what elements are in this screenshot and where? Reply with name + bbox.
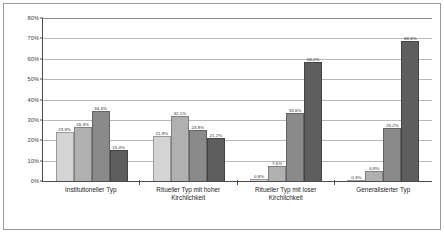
y-axis-tick-label: 10% [28, 158, 40, 164]
bar[interactable]: 32,1% [171, 116, 189, 181]
bar-value-label: 68,8% [404, 36, 417, 41]
bar-value-label: 58,2% [307, 57, 320, 62]
bar[interactable]: 0,3% [347, 180, 365, 181]
bar-value-label: 4,8% [369, 166, 379, 171]
bar-value-label: 26,3% [76, 122, 89, 127]
bar-slot: 26,3% [74, 18, 92, 181]
y-axis-tick-label: 80% [28, 15, 40, 21]
bar[interactable]: 26,3% [74, 127, 92, 181]
y-axis-tick-label: 70% [28, 35, 40, 41]
bar-slot: 68,8% [401, 18, 419, 181]
bar-value-label: 23,9% [58, 127, 71, 132]
bar-slot: 34,4% [92, 18, 110, 181]
y-axis-tick-label: 30% [28, 117, 40, 123]
bar-slot: 21,2% [207, 18, 225, 181]
y-axis-tick-label: 60% [28, 56, 40, 62]
bar-slot: 33,6% [286, 18, 304, 181]
bar-chart: 80%70%60%50%40%30%20%10%0% 23,9%26,3%34,… [0, 0, 444, 233]
bar-value-label: 15,4% [112, 145, 125, 150]
bar-slot: 58,2% [304, 18, 322, 181]
bar-value-label: 26,2% [386, 123, 399, 128]
y-axis-tick-label: 20% [28, 137, 40, 143]
bar-slot: 23,9% [56, 18, 74, 181]
bar-groups: 23,9%26,3%34,4%15,4%21,9%32,1%24,8%21,2%… [43, 18, 432, 181]
x-axis-category-label: Ritueller Typ mit hoher Kirchlichkeit [140, 186, 238, 203]
bar-slot: 4,8% [365, 18, 383, 181]
bar-value-label: 21,9% [156, 131, 169, 136]
bar[interactable]: 0,8% [250, 179, 268, 181]
x-axis-category-label: Ritueller Typ mit loser Kirchlichkeit [237, 186, 335, 203]
bar-value-label: 7,6% [272, 161, 282, 166]
bar[interactable]: 33,6% [286, 113, 304, 181]
bar-group: 21,9%32,1%24,8%21,2% [140, 18, 237, 181]
bar-slot: 0,3% [347, 18, 365, 181]
bar-slot: 15,4% [110, 18, 128, 181]
x-axis-labels: Institutioneller TypRitueller Typ mit ho… [42, 186, 432, 203]
bar-value-label: 33,6% [289, 108, 302, 113]
bar-slot: 24,8% [189, 18, 207, 181]
x-axis-category-label: Generalisierter Typ [335, 186, 433, 203]
x-axis-category-label: Institutioneller Typ [42, 186, 140, 203]
bar[interactable]: 26,2% [383, 128, 401, 181]
y-axis-tick-label: 50% [28, 76, 40, 82]
bar-value-label: 0,8% [254, 174, 264, 179]
bar[interactable]: 58,2% [304, 62, 322, 181]
bar[interactable]: 24,8% [189, 130, 207, 181]
bar-group: 23,9%26,3%34,4%15,4% [43, 18, 140, 181]
bar-slot: 21,9% [153, 18, 171, 181]
y-axis-tick-label: 40% [28, 97, 40, 103]
bar[interactable]: 23,9% [56, 132, 74, 181]
bar-value-label: 0,3% [351, 175, 361, 180]
bar[interactable]: 4,8% [365, 171, 383, 181]
bar[interactable]: 21,9% [153, 136, 171, 181]
bar-slot: 26,2% [383, 18, 401, 181]
bar[interactable]: 68,8% [401, 41, 419, 181]
bar[interactable]: 34,4% [92, 111, 110, 181]
bar-group: 0,8%7,6%33,6%58,2% [238, 18, 335, 181]
bar[interactable]: 7,6% [268, 166, 286, 181]
bar[interactable]: 21,2% [207, 138, 225, 181]
bar-slot: 32,1% [171, 18, 189, 181]
y-axis-tick-label: 0% [31, 178, 39, 184]
plot-area: 80%70%60%50%40%30%20%10%0% 23,9%26,3%34,… [42, 18, 432, 182]
bar-value-label: 32,1% [174, 111, 187, 116]
bar-slot: 0,8% [250, 18, 268, 181]
bar-value-label: 34,4% [94, 106, 107, 111]
bar-group: 0,3%4,8%26,2%68,8% [335, 18, 432, 181]
bar-value-label: 24,8% [192, 125, 205, 130]
bar-slot: 7,6% [268, 18, 286, 181]
bar-value-label: 21,2% [210, 133, 223, 138]
bar[interactable]: 15,4% [110, 150, 128, 181]
